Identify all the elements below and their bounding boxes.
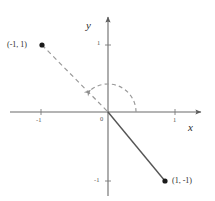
dashed-ray xyxy=(42,45,108,112)
coordinate-plane-figure: (-1, 1) (1, -1) y x 0 -1 1 1 -1 xyxy=(0,0,215,201)
point-b-label: (1, -1) xyxy=(172,177,192,185)
point-a-marker xyxy=(39,42,44,47)
diagram-canvas xyxy=(0,0,215,201)
y-tick-label-neg1: -1 xyxy=(94,177,99,184)
x-tick-label-neg1: -1 xyxy=(36,117,41,124)
point-b-marker xyxy=(162,178,167,183)
origin-label: 0 xyxy=(100,116,103,123)
y-axis-label: y xyxy=(86,20,91,31)
x-tick-label-pos1: 1 xyxy=(173,117,176,124)
rotation-arc xyxy=(88,84,136,112)
point-a-label: (-1, 1) xyxy=(7,41,27,49)
solid-ray xyxy=(108,112,165,181)
x-axis-label: x xyxy=(188,122,193,133)
y-tick-label-pos1: 1 xyxy=(97,40,100,47)
